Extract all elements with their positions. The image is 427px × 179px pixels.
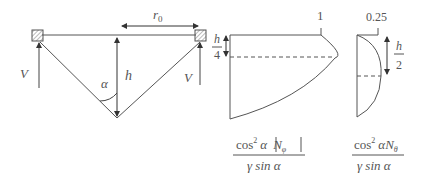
left-reaction-label: V xyxy=(20,66,30,81)
hoop-formula-denominator: γ sin α xyxy=(357,158,392,173)
height-label: h xyxy=(125,68,132,83)
hoop-offset-den: 2 xyxy=(396,58,402,72)
meridional-force-plot: 1 h 4 cos2αNφ γ sin α xyxy=(212,8,338,173)
left-support-block-icon xyxy=(32,30,43,41)
meridional-formula-numerator: cos2αNφ xyxy=(236,136,287,154)
right-support-block-icon xyxy=(195,30,206,41)
meridional-formula-denominator: γ sin α xyxy=(247,158,282,173)
meridional-peak-label: 1 xyxy=(317,8,324,23)
angle-arc-icon xyxy=(100,93,117,101)
right-reaction-label: V xyxy=(184,70,194,85)
conical-shell-diagram: V V h α r0 1 h 4 cos2αNφ γ sin α 0.25 h … xyxy=(0,0,427,179)
meridional-force-curve xyxy=(230,35,338,119)
cone-structure xyxy=(40,35,200,118)
hoop-offset-num: h xyxy=(396,39,402,53)
hoop-force-plot: 0.25 h 2 cos2αNθ γ sin α xyxy=(352,10,404,173)
angle-label: α xyxy=(101,76,109,91)
hoop-peak-label: 0.25 xyxy=(366,10,387,24)
meridional-offset-den: 4 xyxy=(214,48,220,62)
meridional-offset-num: h xyxy=(214,32,220,46)
hoop-formula-numerator: cos2αNθ xyxy=(354,136,398,154)
radius-label: r0 xyxy=(153,7,163,24)
